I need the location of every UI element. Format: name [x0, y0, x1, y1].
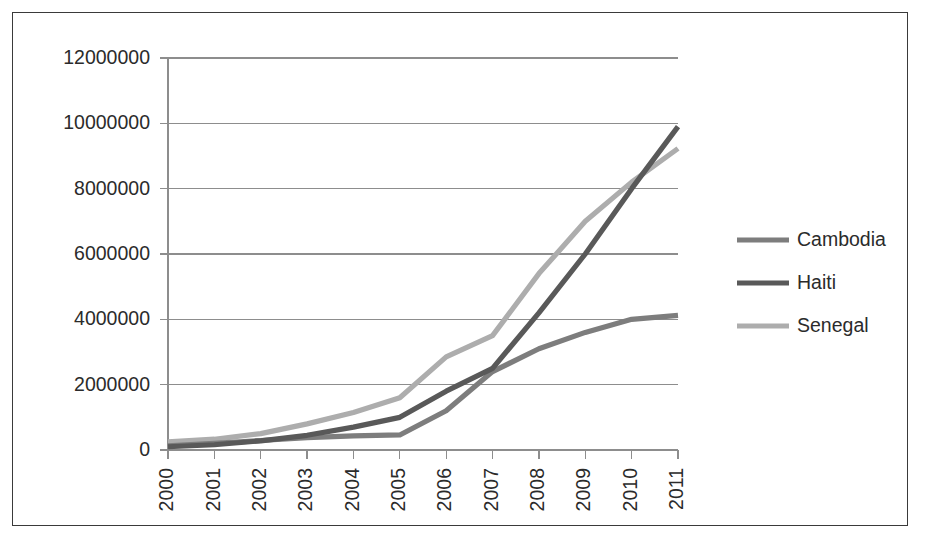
- y-tick-label: 10000000: [63, 111, 150, 133]
- x-tick-label: 2005: [387, 468, 409, 512]
- legend-label-senegal: Senegal: [797, 314, 869, 336]
- x-tick-label: 2009: [572, 468, 594, 511]
- y-tick-label: 8000000: [74, 177, 150, 199]
- y-tick-label: 12000000: [63, 46, 150, 68]
- y-tick-label: 4000000: [74, 307, 150, 329]
- y-tick-label: 2000000: [74, 373, 150, 395]
- x-tick-label: 2008: [526, 468, 548, 511]
- x-tick-label: 2011: [665, 468, 687, 510]
- x-tick-label: 2000: [155, 468, 177, 512]
- y-tick-labels-group: 0200000040000006000000800000010000000120…: [63, 46, 150, 460]
- x-tick-label: 2001: [202, 468, 224, 511]
- x-tick-label: 2006: [433, 468, 455, 511]
- x-tick-label: 2007: [480, 468, 502, 511]
- x-tick-marks-group: [168, 450, 678, 459]
- line-chart: 0200000040000006000000800000010000000120…: [0, 0, 933, 552]
- y-tick-label: 0: [139, 438, 150, 460]
- data-series-group: [168, 127, 678, 447]
- series-line-haiti: [168, 127, 678, 447]
- legend-label-haiti: Haiti: [797, 271, 836, 293]
- chart-legend: CambodiaHaitiSenegal: [737, 228, 886, 336]
- x-tick-label: 2003: [294, 468, 316, 511]
- x-tick-labels-group: 2000200120022003200420052006200720082009…: [155, 468, 687, 512]
- x-tick-label: 2002: [248, 468, 270, 511]
- chart-page: 0200000040000006000000800000010000000120…: [0, 0, 933, 552]
- series-line-senegal: [168, 148, 678, 441]
- y-tick-marks-group: [160, 58, 168, 450]
- x-tick-label: 2004: [341, 468, 363, 512]
- y-tick-label: 6000000: [74, 242, 150, 264]
- x-tick-label: 2010: [619, 468, 641, 512]
- legend-label-cambodia: Cambodia: [797, 228, 886, 250]
- gridlines-group: [168, 58, 678, 385]
